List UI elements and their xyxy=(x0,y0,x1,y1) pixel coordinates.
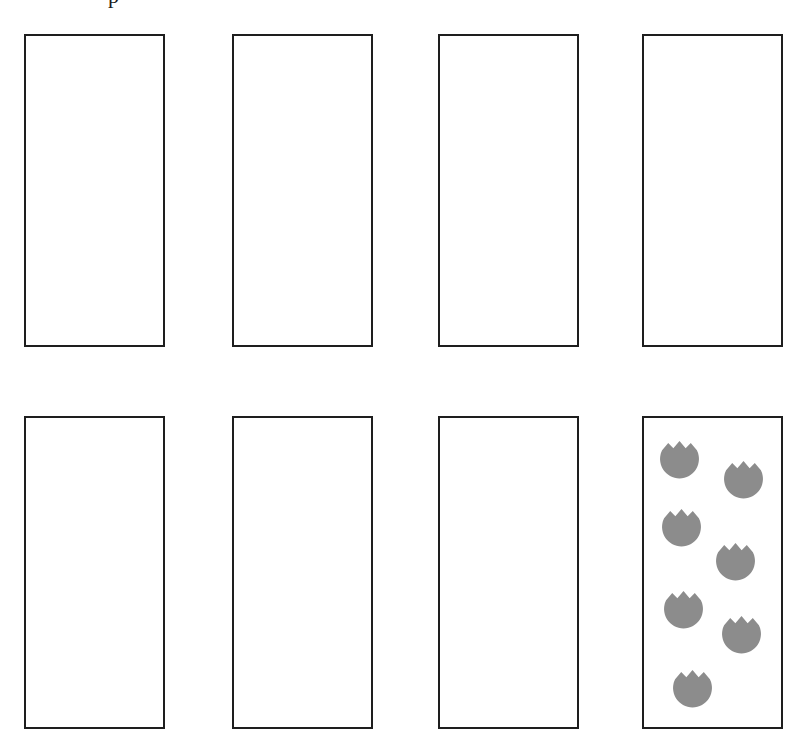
tulip-icon xyxy=(714,540,757,583)
box-row1-col4 xyxy=(642,34,783,347)
tulip-icon xyxy=(662,588,705,631)
box-row1-col3 xyxy=(438,34,579,347)
box-row2-col2 xyxy=(232,416,373,729)
tulip-icon xyxy=(658,438,701,481)
box-row2-col3 xyxy=(438,416,579,729)
cropped-heading-fragment: p xyxy=(108,0,119,6)
box-row1-col1 xyxy=(24,34,165,347)
tulip-icon xyxy=(671,667,714,710)
box-row1-col2 xyxy=(232,34,373,347)
tulip-icon xyxy=(660,506,703,549)
tulip-icon xyxy=(722,458,765,501)
box-row2-col1 xyxy=(24,416,165,729)
tulip-icon xyxy=(720,613,763,656)
